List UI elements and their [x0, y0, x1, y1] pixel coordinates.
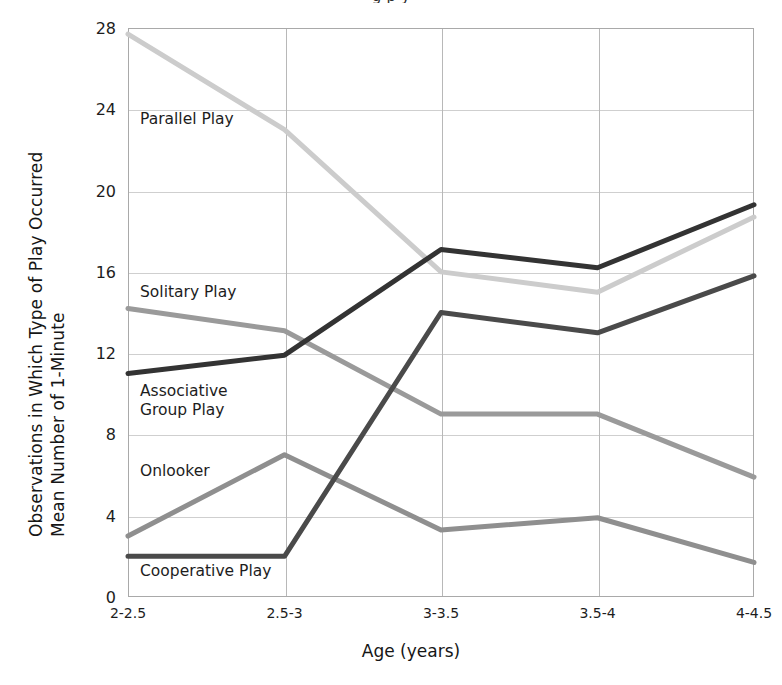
cut-off-title-sliver: g p y	[0, 0, 782, 3]
series-label: Parallel Play	[140, 110, 234, 129]
y-axis-tick-label: 24	[76, 100, 116, 119]
series-label: Solitary Play	[140, 283, 236, 302]
x-axis-title: Age (years)	[0, 641, 782, 661]
series-label: Cooperative Play	[140, 562, 271, 581]
series-label: Onlooker	[140, 462, 210, 481]
x-axis-tick-label: 3.5-4	[579, 605, 615, 621]
series-label: Associative Group Play	[140, 382, 228, 421]
y-axis-title-line-2: Observations in Which Type of Play Occur…	[26, 152, 46, 537]
x-axis-tick-label: 4-4.5	[736, 605, 772, 621]
y-axis-tick-label: 0	[76, 588, 116, 607]
y-axis-tick-labels: 0481216202428	[70, 28, 116, 597]
series-line	[128, 34, 754, 292]
x-axis-title-text: Age (years)	[362, 641, 460, 661]
y-axis-tick-label: 12	[76, 344, 116, 363]
y-axis-tick-label: 16	[76, 262, 116, 281]
y-axis-tick-label: 8	[76, 425, 116, 444]
y-axis-tick-label: 4	[76, 506, 116, 525]
series-line	[128, 455, 754, 563]
y-axis-tick-label: 28	[76, 19, 116, 38]
y-axis-title-line-1: Mean Number of 1-Minute	[48, 312, 68, 537]
x-axis-tick-label: 2-2.5	[110, 605, 146, 621]
x-axis-tick-label: 3-3.5	[423, 605, 459, 621]
y-axis-tick-label: 20	[76, 181, 116, 200]
play-types-line-chart: g p y Mean Number of 1-Minute Observatio…	[0, 0, 782, 685]
x-axis-tick-label: 2.5-3	[266, 605, 302, 621]
